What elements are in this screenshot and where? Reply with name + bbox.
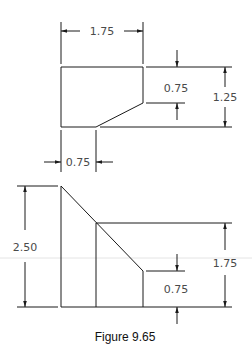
front-view xyxy=(17,186,232,324)
dim-overall-height: 2.50 xyxy=(13,241,38,254)
dim-chamfer-width: 0.75 xyxy=(66,156,91,169)
dim-low-height: 0.75 xyxy=(164,283,189,296)
dim-step-height: 1.75 xyxy=(213,257,238,270)
dim-width-top: 1.75 xyxy=(90,25,115,38)
top-view xyxy=(44,22,232,172)
dim-chamfer-height: 0.75 xyxy=(164,82,189,95)
dim-height: 1.25 xyxy=(213,91,238,104)
technical-drawing: 1.75 0.75 1.25 0.75 2.50 1.75 0.75 Figur… xyxy=(0,0,252,352)
top-view-outline xyxy=(61,67,143,127)
figure-caption: Figure 9.65 xyxy=(95,330,156,344)
front-view-outline xyxy=(61,186,143,307)
